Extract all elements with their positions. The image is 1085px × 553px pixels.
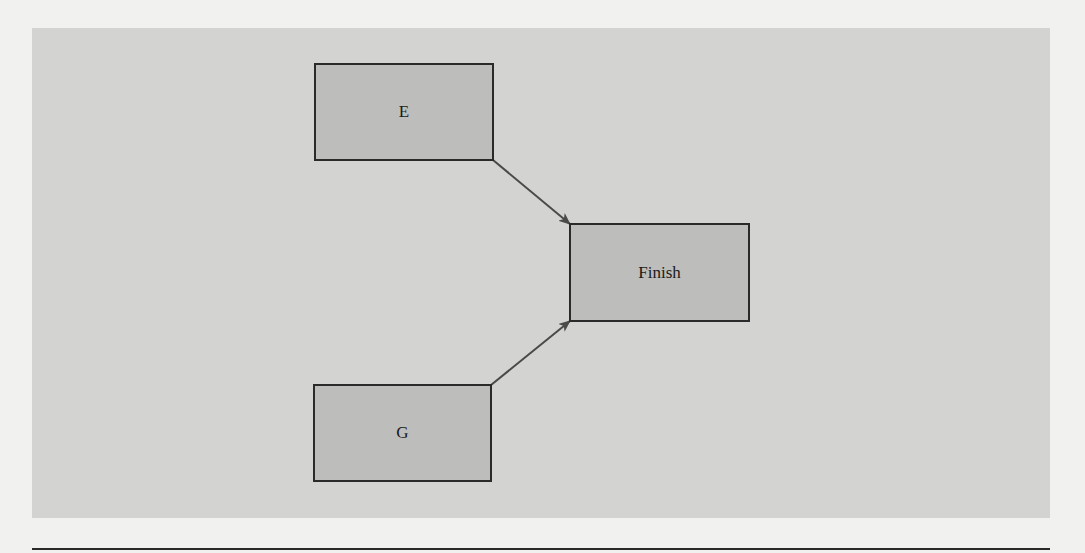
edge-e-to-finish [493,160,570,224]
bottom-rule [32,548,1050,550]
edges-layer [0,0,1085,553]
edge-g-to-finish [491,321,570,385]
node-g: G [313,384,492,482]
node-e-label: E [399,102,409,122]
node-g-label: G [396,423,408,443]
node-e: E [314,63,494,161]
node-finish: Finish [569,223,750,322]
node-finish-label: Finish [638,263,681,283]
